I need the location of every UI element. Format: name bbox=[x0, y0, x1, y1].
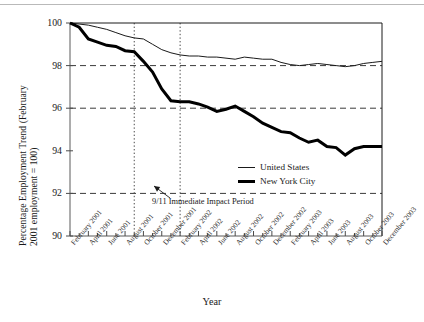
chart-plot-svg bbox=[0, 0, 424, 322]
impact-period-annotation: 9/11 Immediate Impact Period bbox=[152, 197, 254, 206]
legend-label-united-states: United States bbox=[260, 162, 309, 172]
chart-figure: Percentage Employment Trend (February 20… bbox=[0, 0, 424, 322]
y-axis-tick-label: 92 bbox=[38, 187, 62, 198]
y-axis-tick-label: 96 bbox=[38, 102, 62, 113]
legend-item-united-states: United States bbox=[238, 160, 315, 174]
y-axis-tick-label: 90 bbox=[38, 230, 62, 241]
legend-swatch-new-york-city bbox=[238, 180, 255, 183]
chart-legend: United States New York City bbox=[238, 160, 315, 188]
legend-item-new-york-city: New York City bbox=[238, 174, 315, 188]
legend-label-new-york-city: New York City bbox=[260, 176, 315, 186]
legend-swatch-united-states bbox=[238, 167, 255, 168]
y-axis-tick-label: 94 bbox=[38, 145, 62, 156]
x-axis-title: Year bbox=[0, 296, 424, 307]
y-axis-tick-label: 100 bbox=[38, 17, 62, 28]
data-series-lines bbox=[70, 23, 382, 155]
y-axis-tick-label: 98 bbox=[38, 60, 62, 71]
series-line-united-states bbox=[70, 23, 382, 67]
series-line-new-york-city bbox=[70, 23, 382, 155]
gridlines bbox=[70, 66, 382, 194]
